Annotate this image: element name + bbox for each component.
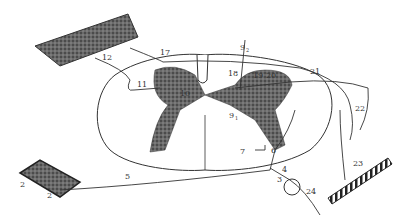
label-21: 21 <box>310 67 320 76</box>
spinal-cord-diagram: 17 12 11 10 9 2 18 19 20 21 9 1 7 6 4 3 … <box>0 0 403 224</box>
label-7: 7 <box>240 147 245 156</box>
label-5: 5 <box>125 172 130 181</box>
label-23: 23 <box>353 159 363 168</box>
label-10: 10 <box>180 89 190 98</box>
right-gray-matter <box>205 70 292 150</box>
label-9-2-sub: 2 <box>246 47 249 53</box>
label-9-1-sub: 1 <box>235 115 238 121</box>
label-3: 3 <box>277 175 282 184</box>
label-22: 22 <box>355 104 365 113</box>
label-9-1: 9 <box>229 111 234 120</box>
label-6: 6 <box>271 146 276 155</box>
label-20: 20 <box>266 71 276 80</box>
nerve-fibers <box>60 40 368 215</box>
label-2-sub: 2 <box>47 191 52 200</box>
label-9-2: 9 <box>240 43 245 52</box>
label-17: 17 <box>160 48 170 57</box>
dorsal-median-sulcus <box>197 55 208 83</box>
left-gray-matter <box>150 67 205 152</box>
label-11: 11 <box>137 80 147 89</box>
label-18: 18 <box>228 69 238 78</box>
skin-tissue-top <box>35 14 138 66</box>
label-4: 4 <box>282 165 287 174</box>
label-2: 2 <box>20 180 25 189</box>
label-12: 12 <box>102 53 112 62</box>
label-24: 24 <box>306 187 316 196</box>
spinal-cord-outline <box>97 54 332 170</box>
label-19: 19 <box>253 71 263 80</box>
